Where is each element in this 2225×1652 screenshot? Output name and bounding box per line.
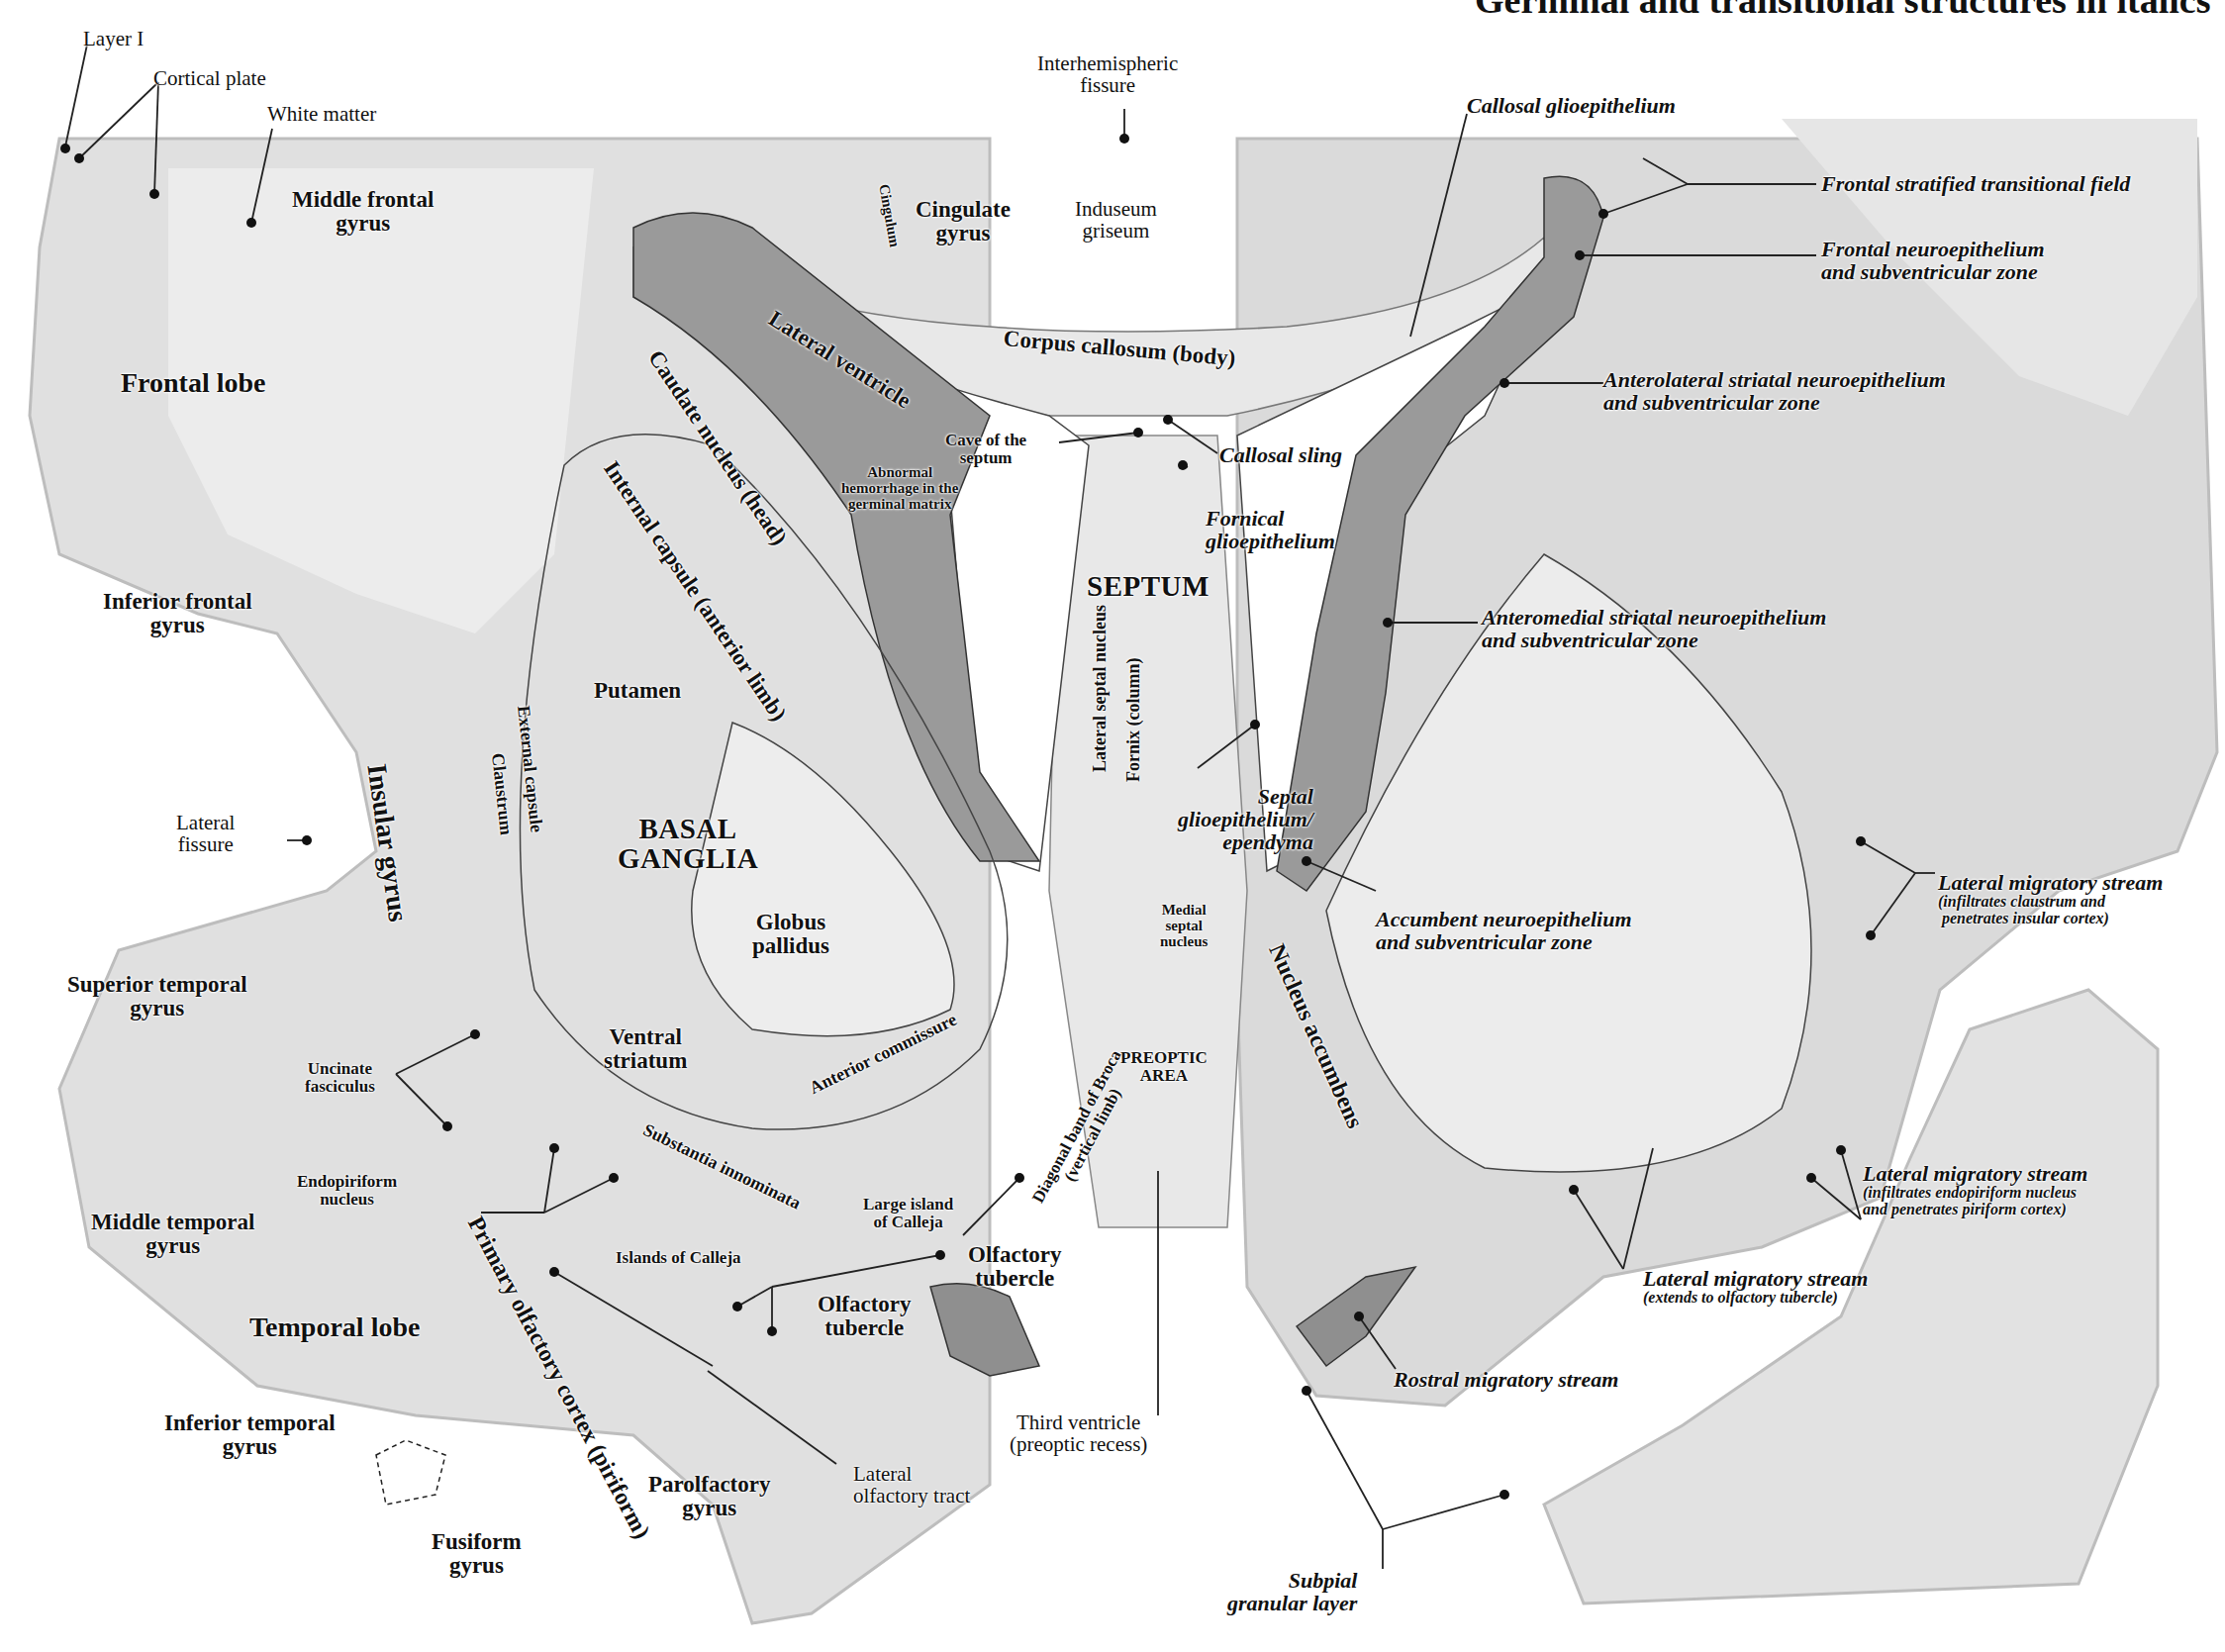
label-induseum-griseum: Induseumgriseum: [1075, 198, 1157, 242]
label-fornix-column: Fornix (column): [1124, 658, 1143, 783]
label-septal-glioepithelium: Septalglioepithelium/ependyma: [1178, 785, 1313, 853]
label-olfactory-tubercle-mid: Olfactorytubercle: [968, 1243, 1062, 1291]
label-frontal-lobe: Frontal lobe: [121, 368, 265, 397]
label-subpial-granular-layer: Subpialgranular layer: [1227, 1569, 1357, 1614]
label-cave-of-septum: Cave of theseptum: [945, 432, 1026, 467]
label-basal-ganglia: BASALGANGLIA: [618, 814, 758, 874]
brain-coronal-section-diagram: Germinal and transitional structures in …: [0, 0, 2225, 1652]
label-accumbent-neuroepithelium: Accumbent neuroepitheliumand subventricu…: [1376, 908, 1632, 953]
label-frontal-neuroepithelium: Frontal neuroepitheliumand subventricula…: [1821, 238, 2045, 283]
label-cortical-plate: Cortical plate: [153, 67, 266, 89]
label-rostral-migratory-stream: Rostral migratory stream: [1394, 1368, 1618, 1391]
label-ventral-striatum: Ventralstriatum: [604, 1025, 687, 1073]
label-lateral-migratory-stream-endopiriform: Lateral migratory stream (infiltrates en…: [1863, 1162, 2087, 1218]
label-parolfactory-gyrus: Parolfactorygyrus: [648, 1473, 770, 1520]
label-middle-frontal-gyrus: Middle frontalgyrus: [292, 188, 434, 236]
label-endopiriform-nucleus: Endopiriformnucleus: [297, 1173, 397, 1209]
label-lateral-migratory-stream-olfactory: Lateral migratory stream (extends to olf…: [1643, 1267, 1868, 1307]
label-anteromedial-striatal-neuroepithelium: Anteromedial striatal neuroepitheliumand…: [1482, 606, 1826, 651]
label-septum: SEPTUM: [1087, 571, 1209, 601]
header-title: Germinal and transitional structures in …: [1475, 0, 2210, 22]
label-anterolateral-striatal-neuroepithelium: Anterolateral striatal neuroepitheliuman…: [1603, 368, 1946, 414]
label-layer-i: Layer I: [83, 28, 144, 49]
label-cingulate-gyrus: Cingulategyrus: [916, 198, 1011, 245]
label-putamen: Putamen: [594, 679, 681, 703]
label-interhemispheric-fissure: Interhemisphericfissure: [1037, 52, 1178, 96]
label-preoptic-area: PREOPTICAREA: [1120, 1049, 1208, 1085]
label-callosal-sling: Callosal sling: [1219, 443, 1342, 466]
label-inferior-frontal-gyrus: Inferior frontalgyrus: [103, 590, 252, 637]
label-temporal-lobe: Temporal lobe: [249, 1312, 420, 1341]
label-lateral-olfactory-tract: Lateralolfactory tract: [853, 1463, 970, 1506]
label-uncinate-fasciculus: Uncinatefasciculus: [305, 1060, 375, 1096]
label-olfactory-tubercle-left: Olfactorytubercle: [818, 1293, 912, 1340]
label-superior-temporal-gyrus: Superior temporalgyrus: [67, 973, 247, 1020]
label-large-island-of-calleja: Large islandof Calleja: [863, 1196, 953, 1231]
label-lateral-migratory-stream-claustrum: Lateral migratory stream (infiltrates cl…: [1938, 871, 2163, 927]
label-islands-of-calleja: Islands of Calleja: [616, 1249, 741, 1267]
label-globus-pallidus: Globuspallidus: [752, 911, 829, 958]
label-fornical-glioepithelium: Fornicalglioepithelium: [1206, 507, 1335, 552]
label-fusiform-gyrus: Fusiformgyrus: [432, 1530, 522, 1578]
label-callosal-glioepithelium: Callosal glioepithelium: [1467, 94, 1676, 117]
dashed-region: [376, 1440, 445, 1505]
label-abnormal-hemorrhage: Abnormalhemorrhage in thegerminal matrix: [841, 465, 958, 512]
label-inferior-temporal-gyrus: Inferior temporalgyrus: [164, 1411, 336, 1459]
label-medial-septal-nucleus: Medialseptalnucleus: [1160, 903, 1208, 949]
label-frontal-stratified-transitional-field: Frontal stratified transitional field: [1821, 172, 2130, 195]
label-third-ventricle: Third ventricle(preoptic recess): [1010, 1411, 1147, 1455]
label-white-matter: White matter: [267, 103, 376, 125]
label-lateral-fissure: Lateralfissure: [176, 812, 235, 855]
label-middle-temporal-gyrus: Middle temporalgyrus: [91, 1211, 254, 1258]
label-lateral-septal-nucleus: Lateral septal nucleus: [1091, 605, 1110, 772]
